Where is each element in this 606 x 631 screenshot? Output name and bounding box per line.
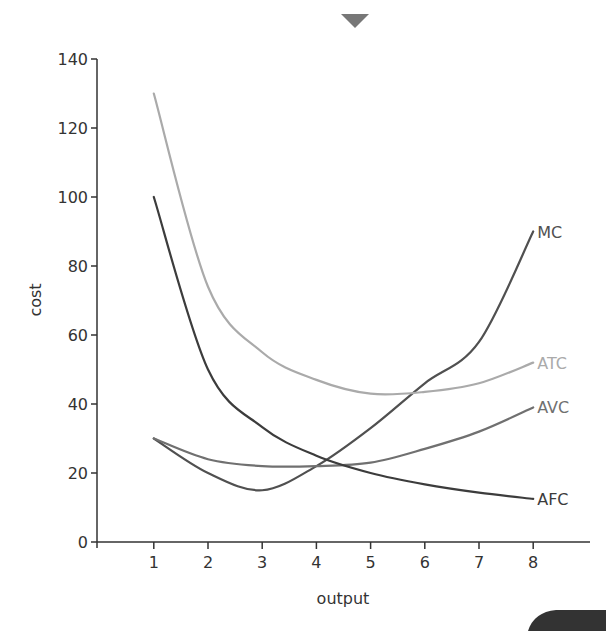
x-tick-label: 3	[257, 553, 267, 572]
curve-atc	[154, 94, 533, 395]
x-axis-title: output	[317, 589, 370, 608]
x-tick-label: 8	[528, 553, 538, 572]
y-tick-label: 20	[68, 464, 88, 483]
y-tick-label: 60	[68, 326, 88, 345]
cost-curves-chart: 02040608010012014012345678outputcost MCA…	[0, 0, 606, 631]
y-tick-label: 0	[78, 533, 88, 552]
label-afc: AFC	[537, 490, 568, 509]
y-tick-label: 40	[68, 395, 88, 414]
y-tick-label: 140	[57, 50, 88, 69]
x-tick-label: 1	[149, 553, 159, 572]
down-triangle-marker-icon	[341, 14, 369, 28]
curve-mc	[154, 232, 533, 491]
x-tick-label: 7	[474, 553, 484, 572]
curves	[154, 94, 533, 499]
x-tick-label: 6	[420, 553, 430, 572]
y-tick-label: 100	[57, 188, 88, 207]
label-atc: ATC	[537, 354, 567, 373]
bottom-right-tab	[528, 610, 606, 631]
series-labels: MCATCAVCAFC	[537, 223, 569, 509]
curve-avc	[154, 407, 533, 466]
y-tick-label: 120	[57, 119, 88, 138]
curve-afc	[154, 197, 533, 499]
x-tick-label: 2	[203, 553, 213, 572]
label-avc: AVC	[537, 398, 569, 417]
label-mc: MC	[537, 223, 562, 242]
y-axis-title: cost	[26, 283, 45, 316]
x-tick-label: 5	[366, 553, 376, 572]
y-tick-label: 80	[68, 257, 88, 276]
x-tick-label: 4	[311, 553, 321, 572]
axes: 02040608010012014012345678outputcost	[26, 50, 590, 608]
